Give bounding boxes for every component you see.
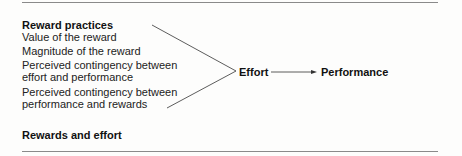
bottom-rule — [22, 151, 438, 152]
arrow-head-icon — [311, 70, 317, 74]
figure-caption: Rewards and effort — [22, 129, 122, 141]
effort-label: Effort — [239, 66, 268, 78]
performance-label: Performance — [321, 66, 388, 78]
